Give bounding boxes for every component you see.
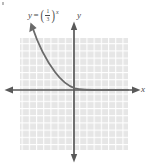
x-axis-label: x bbox=[141, 85, 145, 94]
equation-open-paren: ( bbox=[41, 12, 45, 20]
equation-lhs: y bbox=[28, 11, 32, 20]
equation-annotation: y = ( 1 3 ) x bbox=[28, 9, 59, 22]
fraction-denominator: 3 bbox=[46, 16, 49, 22]
exponential-decay-figure: y = ( 1 3 ) x y x bbox=[0, 0, 151, 165]
graph-canvas bbox=[0, 0, 151, 165]
y-axis-label: y bbox=[77, 11, 81, 20]
equation-equals-sign: = bbox=[34, 11, 39, 20]
equation-close-paren: ) bbox=[51, 12, 55, 20]
equation-fraction: 1 3 bbox=[45, 9, 50, 22]
equation-exponent: x bbox=[56, 9, 59, 15]
